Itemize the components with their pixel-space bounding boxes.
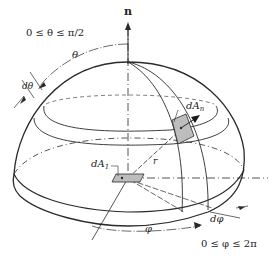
hemisphere-outline	[13, 62, 244, 226]
normal-arrow-icon	[125, 22, 131, 30]
meridian-2	[128, 62, 208, 210]
r-line	[128, 130, 180, 178]
meridian-1	[128, 62, 182, 212]
dtheta-label: dθ	[22, 82, 33, 91]
dphi-label: dφ	[210, 214, 223, 224]
dA1-patch	[112, 174, 144, 182]
dAn-label: dAn	[186, 101, 204, 113]
phi-range-label: 0 ≤ φ ≤ 2π	[201, 239, 257, 249]
theta-arc	[40, 44, 128, 86]
base-ellipse-back	[14, 138, 244, 174]
dA1-label: dA1	[91, 159, 109, 171]
phi-label: φ	[145, 224, 152, 234]
dAn-normal-arrow-icon	[191, 115, 200, 123]
hemisphere-diagram	[0, 0, 276, 258]
theta-range-label: 0 ≤ θ ≤ π/2	[26, 28, 84, 38]
theta-label: θ	[72, 50, 78, 60]
r-label: r	[153, 157, 157, 166]
normal-label: n	[124, 6, 132, 17]
